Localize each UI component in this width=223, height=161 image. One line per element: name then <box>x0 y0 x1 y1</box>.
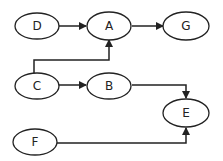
node-label-e: E <box>182 106 190 120</box>
node-d: D <box>15 13 59 39</box>
edge-c-a <box>34 40 109 76</box>
edge-b-e <box>132 85 186 98</box>
node-c: C <box>15 73 59 99</box>
node-a: A <box>87 12 131 40</box>
node-label-a: A <box>105 19 114 33</box>
node-e: E <box>163 99 209 127</box>
node-label-c: C <box>33 79 41 93</box>
node-label-d: D <box>32 19 41 33</box>
node-label-f: F <box>32 135 39 149</box>
edge-f-e <box>57 128 186 143</box>
node-g: G <box>163 12 209 40</box>
node-f: F <box>13 129 57 155</box>
node-b: B <box>87 73 131 99</box>
node-label-g: G <box>181 19 190 33</box>
node-label-b: B <box>105 79 113 93</box>
dependency-graph: D A G C B E F <box>0 0 223 161</box>
